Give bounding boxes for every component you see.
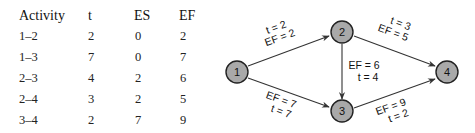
node-4: 4 <box>436 61 458 83</box>
node-2: 2 <box>331 21 353 43</box>
node-1-label: 1 <box>234 66 240 78</box>
node-3-label: 3 <box>339 105 345 117</box>
edge-3-4-label: EF = 9 t = 2 <box>374 95 411 127</box>
edge-1-2-label: t = 2 EF = 2 <box>259 16 296 48</box>
node-2-label: 2 <box>339 26 345 38</box>
edge-1-2 <box>248 36 329 66</box>
edge-1-3-label: EF = 7 t = 7 <box>261 88 298 120</box>
edge-2-3-label-line2: t = 4 <box>358 71 379 83</box>
edge-2-3-label-line1: EF = 6 <box>348 59 379 71</box>
node-1: 1 <box>226 61 248 83</box>
node-4-label: 4 <box>444 66 450 78</box>
network-diagram: t = 2 EF = 2 EF = 7 t = 7 EF = 6 t = 4 t… <box>0 0 475 133</box>
node-3: 3 <box>331 100 353 122</box>
edge-2-3-label: EF = 6 t = 4 <box>348 59 379 83</box>
edge-2-4-label: t = 3 EF = 5 <box>377 11 414 43</box>
